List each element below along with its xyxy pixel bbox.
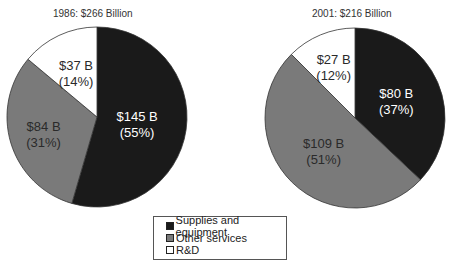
slice-percent-label: (31%)	[26, 135, 61, 150]
slice-value-label: $84 B	[27, 119, 61, 134]
slice-percent-label: (14%)	[59, 74, 94, 89]
slice-percent-label: (55%)	[120, 125, 155, 140]
legend: Supplies and equipment Other services R&…	[153, 216, 287, 260]
legend-label: Other services	[176, 232, 247, 244]
pie-chart-1986: $145 B(55%)$84 B(31%)$37 B(14%)	[7, 27, 187, 207]
slice-percent-label: (12%)	[316, 68, 351, 83]
slice-percent-label: (51%)	[306, 152, 341, 167]
legend-swatch-rnd	[166, 246, 174, 254]
legend-label: R&D	[176, 244, 199, 256]
legend-item-rnd: R&D	[166, 244, 286, 256]
legend-item-supplies: Supplies and equipment	[166, 220, 286, 232]
slice-value-label: $27 B	[317, 52, 351, 67]
legend-swatch-supplies	[166, 222, 174, 230]
slice-value-label: $145 B	[116, 109, 157, 124]
slice-value-label: $80 B	[379, 86, 413, 101]
pie-chart-2001: $80 B(37%)$109 B(51%)$27 B(12%)	[265, 28, 445, 208]
legend-swatch-other-services	[166, 234, 174, 242]
slice-value-label: $109 B	[303, 136, 344, 151]
slice-percent-label: (37%)	[379, 102, 414, 117]
slice-value-label: $37 B	[59, 58, 93, 73]
